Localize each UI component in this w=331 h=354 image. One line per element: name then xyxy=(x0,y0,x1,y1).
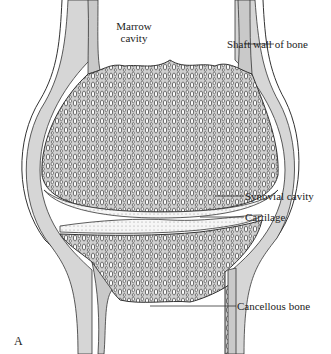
panel-letter: A xyxy=(14,335,23,347)
shaft-wall-left xyxy=(88,0,100,74)
cartilage-label: Cartilage xyxy=(245,211,285,223)
marrow-label-line1: Marrow xyxy=(104,20,164,32)
marrow-label-line2: cavity xyxy=(104,32,164,44)
shaft-wall-right xyxy=(238,0,252,74)
synovial-cavity-label: Synovial cavity xyxy=(245,190,314,202)
joint-diagram: Marrow cavity Shaft wall of bone Synovia… xyxy=(0,0,331,354)
shaft-wall-label: Shaft wall of bone xyxy=(227,38,308,50)
lower-shaft-wall-right xyxy=(228,268,236,354)
cancellous-bone-label: Cancellous bone xyxy=(237,300,310,312)
marrow-cavity-label: Marrow cavity xyxy=(104,20,164,44)
upper-bone-head xyxy=(42,60,278,212)
